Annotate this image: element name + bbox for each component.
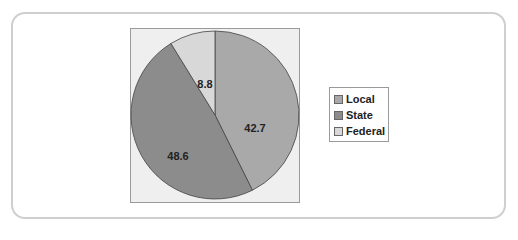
legend-swatch-federal: [334, 127, 343, 136]
label-federal: 8.8: [197, 78, 212, 90]
legend-label: Local: [346, 93, 375, 105]
legend-swatch-state: [334, 111, 343, 120]
legend: Local State Federal: [329, 87, 389, 142]
label-local: 42.7: [244, 122, 265, 134]
legend-item-local: Local: [334, 91, 388, 107]
pie-chart: 42.7 48.6 8.8: [130, 28, 300, 203]
label-state: 48.6: [167, 150, 188, 162]
legend-item-federal: Federal: [334, 123, 388, 139]
legend-label: Federal: [346, 125, 385, 137]
legend-label: State: [346, 109, 373, 121]
legend-item-state: State: [334, 107, 388, 123]
legend-swatch-local: [334, 95, 343, 104]
